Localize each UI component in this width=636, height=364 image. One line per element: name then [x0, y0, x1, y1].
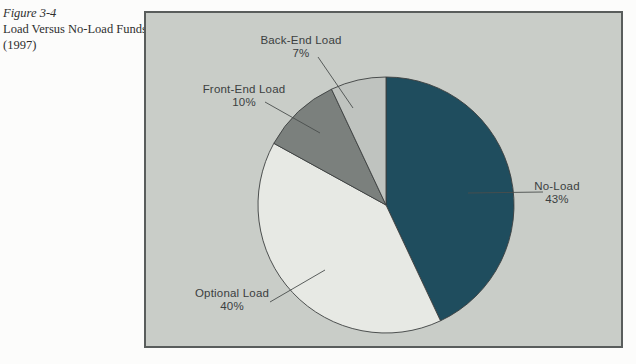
figure-title: Load Versus No-Load Funds: [3, 21, 147, 37]
label-front-end-load: Front-End Load 10%: [203, 83, 286, 109]
label-optional-load-value: 40%: [195, 300, 269, 313]
label-back-end-load-value: 7%: [260, 47, 341, 60]
figure-year: (1997): [3, 37, 147, 53]
label-front-end-load-value: 10%: [203, 96, 286, 109]
label-no-load-value: 43%: [534, 193, 580, 206]
figure-caption: Figure 3-4 Load Versus No-Load Funds (19…: [3, 5, 147, 53]
label-back-end-load-name: Back-End Load: [260, 34, 341, 47]
pie-slices: [258, 77, 514, 333]
label-back-end-load: Back-End Load 7%: [260, 34, 341, 60]
label-front-end-load-name: Front-End Load: [203, 83, 286, 96]
figure-number: Figure 3-4: [3, 5, 147, 21]
chart-area: Back-End Load 7% Front-End Load 10% No-L…: [144, 11, 623, 348]
label-no-load: No-Load 43%: [534, 180, 580, 206]
label-optional-load: Optional Load 40%: [195, 287, 269, 313]
label-optional-load-name: Optional Load: [195, 287, 269, 300]
label-no-load-name: No-Load: [534, 180, 580, 193]
